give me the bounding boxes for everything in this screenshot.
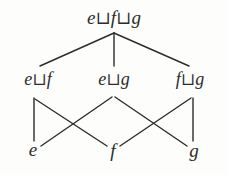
edge-top-to-f-join-g bbox=[114, 33, 189, 66]
node-e: e bbox=[29, 140, 37, 159]
join-symbol-icon: ⊔ bbox=[106, 70, 120, 89]
join-symbol-icon: ⊔ bbox=[181, 70, 195, 89]
node-f: f bbox=[110, 141, 115, 160]
edge-e-join-f-to-f bbox=[35, 99, 107, 146]
join-symbol-icon: ⊔ bbox=[116, 8, 131, 28]
join-symbol-icon: ⊔ bbox=[32, 70, 46, 89]
edge-top-to-e-join-f bbox=[40, 33, 114, 66]
node-operand-e: e bbox=[98, 69, 106, 89]
node-top-operand-g: g bbox=[131, 7, 141, 28]
edge-f-join-g-to-f bbox=[120, 98, 191, 146]
join-symbol-icon: ⊔ bbox=[96, 8, 111, 28]
node-operand-f: f bbox=[47, 69, 52, 89]
edge-e-join-g-to-g bbox=[115, 97, 187, 146]
node-f-join-g: f⊔g bbox=[176, 70, 205, 89]
node-g: g bbox=[189, 141, 199, 160]
node-operand-g: g bbox=[195, 69, 204, 89]
node-e-join-g: e⊔g bbox=[98, 70, 129, 89]
node-e-join-f: e⊔f bbox=[24, 70, 52, 89]
node-e-join-f-join-g: e⊔f⊔g bbox=[87, 8, 141, 28]
edge-e-join-g-to-e bbox=[41, 97, 112, 146]
node-operand-e: e bbox=[24, 69, 32, 89]
hasse-diagram-figure: e⊔f⊔g e⊔f e⊔g f⊔g e f g bbox=[0, 0, 228, 175]
node-operand-g: g bbox=[121, 69, 130, 89]
